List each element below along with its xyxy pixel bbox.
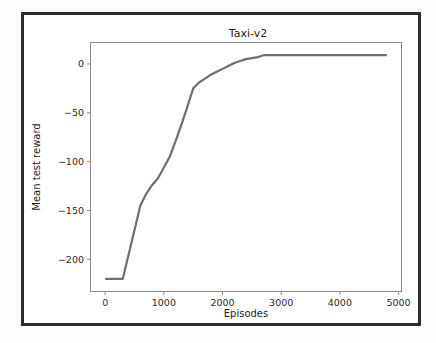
x-tick-label: 2000	[210, 297, 234, 308]
figure-canvas: Taxi-v2 010002000300040005000 0−50−100−1…	[24, 15, 418, 323]
chart-title: Taxi-v2	[228, 27, 267, 40]
screenshot-root: Taxi-v2 010002000300040005000 0−50−100−1…	[0, 0, 436, 343]
chart-plot: Taxi-v2 010002000300040005000 0−50−100−1…	[24, 15, 418, 323]
y-tick-label: −50	[64, 107, 84, 118]
y-tick-label: −100	[58, 156, 84, 167]
x-tick-label: 4000	[328, 297, 352, 308]
y-tick-label: −200	[58, 254, 84, 265]
x-tick-label: 3000	[269, 297, 293, 308]
y-tick-label: 0	[78, 58, 84, 69]
x-tick-label: 0	[102, 297, 108, 308]
x-tick-label: 5000	[386, 297, 410, 308]
x-tick-label: 1000	[152, 297, 176, 308]
y-tick-label: −150	[58, 205, 84, 216]
x-axis-label: Episodes	[224, 308, 268, 319]
figure-frame: Taxi-v2 010002000300040005000 0−50−100−1…	[21, 12, 421, 326]
y-axis-label: Mean test reward	[31, 123, 42, 210]
